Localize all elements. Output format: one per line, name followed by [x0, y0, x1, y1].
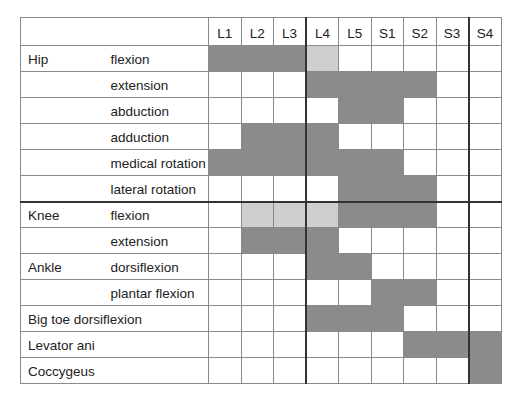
column-header-l5: L5 [339, 18, 372, 46]
column-header-s3: S3 [436, 18, 469, 46]
segment-cell-s1 [371, 72, 404, 98]
segment-cell-s3 [436, 46, 469, 72]
segment-cell-s1 [371, 202, 404, 228]
segment-cell-l3 [274, 98, 307, 124]
segment-cell-l2 [241, 332, 274, 358]
table-row: extension [21, 228, 502, 254]
segment-cell-s2 [404, 254, 437, 280]
region-label: Coccygeus [21, 358, 209, 384]
segment-cell-l2 [241, 176, 274, 202]
segment-cell-l1 [209, 98, 242, 124]
segment-cell-s2 [404, 306, 437, 332]
segment-cell-s2 [404, 176, 437, 202]
segment-cell-l5 [339, 306, 372, 332]
movement-label: medical rotation [107, 150, 209, 176]
segment-cell-s1 [371, 332, 404, 358]
segment-cell-l3 [274, 150, 307, 176]
column-header-l2: L2 [241, 18, 274, 46]
table-row: abduction [21, 98, 502, 124]
segment-cell-s1 [371, 150, 404, 176]
segment-cell-s1 [371, 306, 404, 332]
segment-cell-l3 [274, 228, 307, 254]
segment-cell-l1 [209, 176, 242, 202]
movement-label: lateral rotation [107, 176, 209, 202]
movement-label: extension [107, 228, 209, 254]
segment-cell-l3 [274, 202, 307, 228]
segment-cell-l1 [209, 202, 242, 228]
segment-cell-l4 [306, 228, 339, 254]
region-label [21, 124, 107, 150]
table-row: Levator ani [21, 332, 502, 358]
table-row: extension [21, 72, 502, 98]
segment-cell-s3 [436, 332, 469, 358]
segment-cell-s4 [469, 72, 502, 98]
segment-cell-s1 [371, 228, 404, 254]
segment-cell-s3 [436, 306, 469, 332]
segment-cell-s2 [404, 124, 437, 150]
segment-cell-l1 [209, 306, 242, 332]
segment-cell-l4 [306, 332, 339, 358]
movement-label: flexion [107, 46, 209, 72]
segment-cell-s4 [469, 150, 502, 176]
segment-cell-s3 [436, 228, 469, 254]
table-row: Coccygeus [21, 358, 502, 384]
movement-label: adduction [107, 124, 209, 150]
table-row: Hipflexion [21, 46, 502, 72]
segment-cell-l1 [209, 72, 242, 98]
column-header-s1: S1 [371, 18, 404, 46]
segment-cell-l2 [241, 306, 274, 332]
segment-cell-l3 [274, 254, 307, 280]
segment-cell-l2 [241, 98, 274, 124]
segment-cell-l1 [209, 150, 242, 176]
segment-cell-l2 [241, 254, 274, 280]
segment-cell-l4 [306, 72, 339, 98]
segment-cell-l4 [306, 358, 339, 384]
segment-cell-s4 [469, 280, 502, 306]
header-blank [21, 18, 209, 46]
segment-cell-s4 [469, 176, 502, 202]
segment-cell-l5 [339, 176, 372, 202]
table-row: Ankledorsiflexion [21, 254, 502, 280]
segment-cell-l3 [274, 332, 307, 358]
segment-cell-l2 [241, 72, 274, 98]
region-label [21, 150, 107, 176]
column-header-l3: L3 [274, 18, 307, 46]
segment-cell-s2 [404, 46, 437, 72]
segment-cell-s4 [469, 228, 502, 254]
table-row: Kneeflexion [21, 202, 502, 228]
segment-cell-s2 [404, 202, 437, 228]
table-row: adduction [21, 124, 502, 150]
segment-cell-l3 [274, 46, 307, 72]
region-label: Levator ani [21, 332, 209, 358]
segment-cell-l4 [306, 280, 339, 306]
segment-cell-l3 [274, 306, 307, 332]
segment-cell-l2 [241, 280, 274, 306]
segment-cell-s2 [404, 72, 437, 98]
segment-cell-l3 [274, 176, 307, 202]
segment-cell-l5 [339, 332, 372, 358]
segment-cell-l3 [274, 124, 307, 150]
segment-cell-l4 [306, 176, 339, 202]
movement-label: flexion [107, 202, 209, 228]
segment-cell-l2 [241, 358, 274, 384]
segment-cell-s2 [404, 332, 437, 358]
region-label [21, 176, 107, 202]
segment-cell-l2 [241, 228, 274, 254]
column-header-l1: L1 [209, 18, 242, 46]
segment-cell-s2 [404, 358, 437, 384]
segment-cell-s3 [436, 98, 469, 124]
segment-cell-l5 [339, 98, 372, 124]
movement-label: plantar flexion [107, 280, 209, 306]
segment-cell-s1 [371, 98, 404, 124]
segment-cell-s1 [371, 358, 404, 384]
segment-cell-l4 [306, 150, 339, 176]
segment-cell-s2 [404, 280, 437, 306]
segment-cell-s4 [469, 358, 502, 384]
segment-cell-l5 [339, 202, 372, 228]
segment-cell-l5 [339, 150, 372, 176]
segment-cell-s4 [469, 46, 502, 72]
segment-cell-l2 [241, 46, 274, 72]
region-label [21, 228, 107, 254]
myotome-table: L1L2L3L4L5S1S2S3S4Hipflexionextensionabd… [20, 17, 502, 384]
segment-cell-s4 [469, 202, 502, 228]
